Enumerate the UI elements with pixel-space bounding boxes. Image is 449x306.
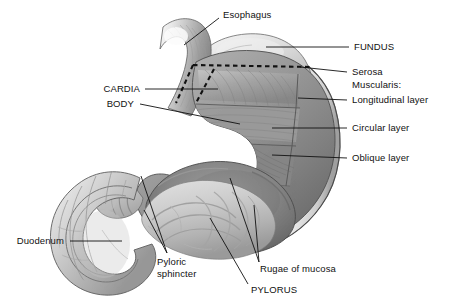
label-body: BODY bbox=[48, 98, 134, 109]
label-rugae-of-mucosa: Rugae of mucosa bbox=[260, 263, 336, 274]
label-fundus: FUNDUS bbox=[354, 41, 394, 52]
label-esophagus: Esophagus bbox=[223, 9, 271, 20]
label-oblique-layer: Oblique layer bbox=[352, 152, 409, 163]
label-muscularis: Muscularis: bbox=[352, 79, 401, 90]
figure-canvas: Esophagus FUNDUS Serosa Muscularis: Long… bbox=[0, 0, 449, 306]
label-cardia: CARDIA bbox=[48, 83, 140, 94]
label-duodenum: Duodenum bbox=[0, 235, 64, 246]
label-pylorus: PYLORUS bbox=[251, 284, 297, 295]
label-circular-layer: Circular layer bbox=[352, 122, 409, 133]
label-pyloric-sphincter-line2: sphincter bbox=[157, 268, 196, 279]
label-longitudinal-layer: Longitudinal layer bbox=[352, 94, 428, 105]
label-pyloric-sphincter-line1: Pyloric bbox=[157, 256, 186, 267]
label-serosa: Serosa bbox=[352, 66, 383, 77]
